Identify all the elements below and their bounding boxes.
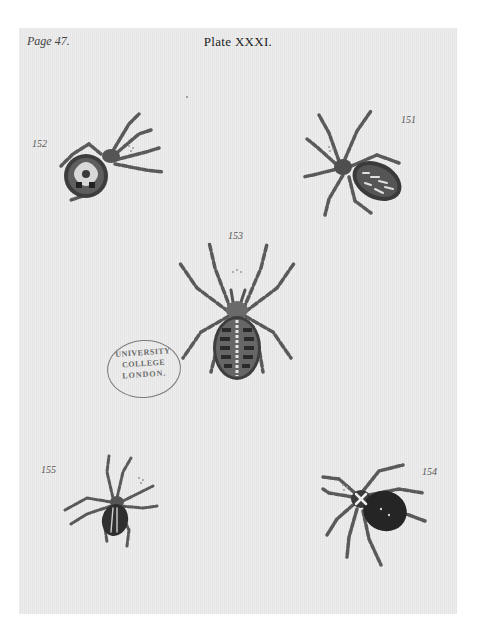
spider-154-icon [319, 453, 429, 573]
plate-page: Page 47. Plate XXXI. 152 151 [19, 28, 457, 614]
spider-illustration-155 [57, 448, 157, 548]
figure-number-152: 152 [32, 138, 47, 149]
spider-illustration-151 [299, 103, 419, 223]
spider-151-icon [299, 103, 419, 223]
spider-illustration-154 [319, 453, 429, 573]
library-stamp: UNIVERSITY COLLEGE LONDON. [105, 337, 183, 400]
figure-number-155: 155 [41, 464, 56, 475]
spider-152-icon [51, 104, 161, 209]
spider-illustration-153 [177, 240, 297, 380]
spider-153-icon [177, 240, 297, 380]
spider-155-icon [57, 448, 157, 548]
spider-illustration-152 [51, 104, 161, 209]
plate-title: Plate XXXI. [19, 34, 457, 50]
ink-speck [186, 96, 188, 98]
